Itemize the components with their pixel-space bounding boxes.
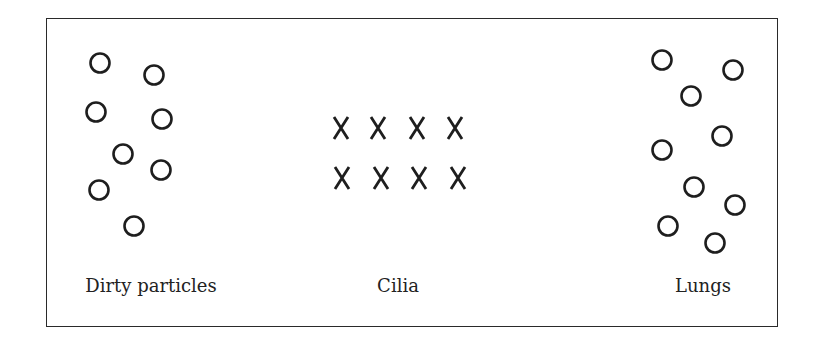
group-lungs <box>653 51 745 253</box>
label-dirty-particles: Dirty particles <box>85 275 217 296</box>
particle-circle-icon <box>685 178 704 197</box>
particle-circle-icon <box>91 54 110 73</box>
particle-circle-icon <box>152 161 171 180</box>
particle-circle-icon <box>153 110 172 129</box>
cilia-x-icon <box>451 167 465 189</box>
group-dirty-particles <box>87 54 172 236</box>
particle-circle-icon <box>114 145 133 164</box>
cilia-x-icon <box>412 167 426 189</box>
particle-circle-icon <box>713 127 732 146</box>
cilia-x-icon <box>371 117 385 139</box>
particle-circle-icon <box>653 141 672 160</box>
particle-circle-icon <box>90 181 109 200</box>
particle-circle-icon <box>706 234 725 253</box>
group-cilia <box>334 117 465 189</box>
label-cilia: Cilia <box>377 275 419 296</box>
cilia-x-icon <box>335 167 349 189</box>
cilia-x-icon <box>410 117 424 139</box>
particle-circle-icon <box>145 66 164 85</box>
particle-circle-icon <box>125 217 144 236</box>
particle-circle-icon <box>724 61 743 80</box>
particle-circle-icon <box>87 103 106 122</box>
cilia-x-icon <box>448 117 462 139</box>
cilia-x-icon <box>374 167 388 189</box>
cilia-x-icon <box>334 117 348 139</box>
particle-circle-icon <box>682 87 701 106</box>
particle-circle-icon <box>726 196 745 215</box>
particle-circle-icon <box>653 51 672 70</box>
label-lungs: Lungs <box>675 275 731 296</box>
particle-circle-icon <box>659 217 678 236</box>
